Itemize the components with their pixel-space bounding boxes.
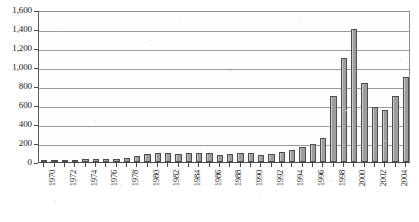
y-axis-tick-label: 200 <box>0 138 32 148</box>
bar <box>93 159 99 162</box>
x-axis-tick-label: 2002 <box>378 170 388 186</box>
bar <box>382 110 388 162</box>
y-axis-tick-label: 1,000 <box>0 62 32 72</box>
bar <box>258 155 264 162</box>
y-axis-tick-label: 400 <box>0 119 32 129</box>
x-axis-tick-mark <box>157 163 158 167</box>
bar <box>155 153 161 163</box>
y-axis-tick-label: 1,600 <box>0 5 32 15</box>
bar <box>41 160 47 162</box>
x-axis-tick-mark <box>260 163 261 167</box>
x-axis-tick-mark <box>147 163 148 167</box>
scan-artifact <box>330 180 332 181</box>
scan-artifact <box>260 195 261 196</box>
bar <box>289 150 295 162</box>
x-axis-tick-label: 2004 <box>399 170 409 186</box>
bar <box>196 153 202 162</box>
x-axis-tick-mark <box>229 163 230 167</box>
x-axis-tick-mark <box>302 163 303 167</box>
bar <box>144 154 150 162</box>
bar <box>62 160 68 162</box>
x-axis-tick-label: 1986 <box>213 170 223 186</box>
x-axis-tick-mark <box>126 163 127 167</box>
bar <box>351 29 357 162</box>
x-axis-tick-label: 1994 <box>295 170 305 186</box>
bar <box>165 153 171 162</box>
bar <box>361 83 367 162</box>
bar <box>124 158 130 162</box>
x-axis-tick-mark <box>219 163 220 167</box>
x-axis-tick-mark <box>95 163 96 167</box>
x-axis-tick-label: 1990 <box>254 170 264 186</box>
bar <box>186 153 192 162</box>
bar <box>310 144 316 162</box>
x-axis-tick-mark <box>384 163 385 167</box>
bar <box>372 107 378 162</box>
scan-artifact <box>120 185 122 186</box>
x-axis-tick-mark <box>250 163 251 167</box>
x-axis-tick-label: 1982 <box>171 170 181 186</box>
bar <box>206 153 212 163</box>
x-axis-tick-mark <box>333 163 334 167</box>
x-axis-tick-label: 1978 <box>130 170 140 186</box>
bar <box>279 152 285 162</box>
bar <box>403 77 409 163</box>
x-axis-tick-mark <box>209 163 210 167</box>
x-axis-tick-mark <box>54 163 55 167</box>
x-axis-tick-mark <box>136 163 137 167</box>
x-axis-tick-label: 1988 <box>233 170 243 186</box>
x-axis-tick-label: 1996 <box>316 170 326 186</box>
bar <box>330 96 336 163</box>
x-axis-tick-mark <box>43 163 44 167</box>
bar <box>72 160 78 162</box>
bar <box>268 154 274 162</box>
x-axis-tick-mark <box>64 163 65 167</box>
x-axis-tick-mark <box>240 163 241 167</box>
x-axis-tick-mark <box>405 163 406 167</box>
x-axis-tick-label: 1972 <box>68 170 78 186</box>
x-axis-tick-mark <box>167 163 168 167</box>
plot-area <box>38 11 410 163</box>
scan-artifact <box>55 200 56 201</box>
bar <box>341 58 347 163</box>
y-axis-tick-label: 0 <box>0 157 32 167</box>
y-axis-tick-label: 1,200 <box>0 43 32 53</box>
bar <box>103 159 109 162</box>
y-axis-tick-mark <box>34 163 38 164</box>
x-axis-tick-mark <box>395 163 396 167</box>
y-axis-tick-label: 600 <box>0 100 32 110</box>
x-axis-tick-mark <box>271 163 272 167</box>
bar <box>82 159 88 162</box>
x-axis-tick-mark <box>353 163 354 167</box>
bar <box>299 147 305 162</box>
x-axis-tick-mark <box>178 163 179 167</box>
x-axis-tick-mark <box>291 163 292 167</box>
x-axis-tick-mark <box>312 163 313 167</box>
x-axis-tick-mark <box>116 163 117 167</box>
x-axis-tick-mark <box>198 163 199 167</box>
x-axis-tick-mark <box>105 163 106 167</box>
x-axis-tick-label: 1974 <box>89 170 99 186</box>
x-axis-tick-label: 1984 <box>192 170 202 186</box>
x-axis-tick-mark <box>374 163 375 167</box>
bar <box>392 96 398 163</box>
x-axis-tick-label: 1992 <box>275 170 285 186</box>
y-axis-tick-label: 1,400 <box>0 24 32 34</box>
y-axis-tick-label: 800 <box>0 81 32 91</box>
x-axis-tick-mark <box>364 163 365 167</box>
x-axis-tick-label: 1998 <box>337 170 347 186</box>
x-axis-tick-mark <box>74 163 75 167</box>
x-axis-tick-mark <box>281 163 282 167</box>
bar <box>227 154 233 162</box>
bar-chart: 1,6001,4001,2001,0008006004002000 197019… <box>0 0 419 222</box>
x-axis-tick-label: 1970 <box>47 170 57 186</box>
bar <box>320 138 326 162</box>
bar <box>217 155 223 162</box>
bar <box>113 159 119 162</box>
bar <box>237 153 243 162</box>
x-axis-tick-mark <box>343 163 344 167</box>
x-axis-tick-label: 2000 <box>357 170 367 186</box>
bar <box>51 160 57 162</box>
bar <box>134 156 140 162</box>
bar-series <box>39 12 409 162</box>
